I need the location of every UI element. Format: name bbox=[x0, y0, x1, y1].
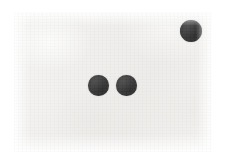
dot-center-right bbox=[116, 75, 137, 96]
dot-center-left bbox=[88, 75, 109, 96]
paper-background bbox=[14, 12, 212, 152]
image-canvas bbox=[0, 0, 226, 168]
dot-top-right bbox=[180, 20, 202, 42]
